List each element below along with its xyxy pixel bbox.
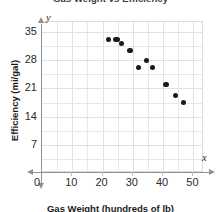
data-point [144, 58, 149, 63]
y-tick-label: 28 [7, 53, 37, 65]
x-tick-mark [102, 172, 103, 176]
gridline-horizontal [42, 60, 202, 61]
data-point [163, 82, 168, 87]
gridline-vertical [148, 22, 149, 171]
x-tick-label: 30 [126, 176, 138, 188]
gridline-vertical [178, 22, 179, 171]
x-tick-mark [71, 172, 72, 176]
x-tick-label: 50 [186, 176, 198, 188]
y-axis-letter: y [46, 12, 51, 23]
data-point [127, 48, 132, 53]
x-axis-letter: x [202, 152, 207, 163]
y-axis-line [41, 24, 42, 185]
gridline-horizontal-minor [42, 74, 202, 75]
gridline-horizontal [42, 117, 202, 118]
gridline-horizontal-minor [42, 103, 202, 104]
gridline-vertical [193, 22, 194, 171]
y-tick-label: 21 [7, 81, 37, 93]
gridline-vertical [87, 22, 88, 171]
x-axis-right-arrow-icon [209, 169, 215, 175]
gridline-horizontal-minor [42, 131, 202, 132]
y-tick-label: 7 [7, 138, 37, 150]
origin-label: 0 [34, 176, 40, 188]
gridline-horizontal [42, 145, 202, 146]
gridline-vertical [163, 22, 164, 171]
x-axis-line [31, 172, 212, 173]
scatter-plot-screenshot: Gas Weight vs Efficiency Efficiency (mi/… [0, 0, 221, 212]
gridline-horizontal-minor [42, 46, 202, 47]
y-tick-label: 35 [7, 25, 37, 37]
y-tick-label: 14 [7, 110, 37, 122]
gridline-vertical [103, 22, 104, 171]
x-tick-mark [132, 172, 133, 176]
gridline-vertical [72, 22, 73, 171]
y-tick-labels: 714212835 [4, 0, 37, 212]
gridline-vertical [133, 22, 134, 171]
x-tick-label: 40 [156, 176, 168, 188]
x-tick-mark [162, 172, 163, 176]
data-point [173, 93, 178, 98]
gridline-horizontal-minor [42, 159, 202, 160]
gridline-horizontal [42, 32, 202, 33]
gridline-vertical [57, 22, 58, 171]
x-axis-title: Gas Weight (hundreds of lb) [0, 203, 221, 212]
y-axis-up-arrow-icon [38, 17, 44, 23]
x-tick-label: 10 [65, 176, 77, 188]
plot-area [41, 21, 203, 172]
x-tick-mark [192, 172, 193, 176]
gridline-horizontal [42, 88, 202, 89]
x-tick-label: 20 [95, 176, 107, 188]
